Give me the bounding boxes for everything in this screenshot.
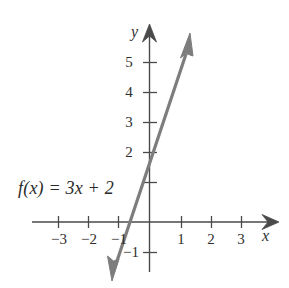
y-tick-label-3: 3 — [120, 115, 138, 130]
function-line-arrow-up-icon — [181, 33, 194, 58]
y-tick-label-neg1: −1 — [119, 245, 143, 260]
graph-figure: y x −3 −2 −1 1 2 3 5 4 3 2 −1 f(x) = 3x … — [0, 0, 289, 288]
y-axis-label: y — [131, 24, 138, 40]
x-tick-label-pos2: 2 — [201, 232, 221, 247]
x-tick-label-pos3: 3 — [231, 232, 251, 247]
x-axis-label: x — [262, 228, 269, 244]
x-tick-label-pos1: 1 — [171, 232, 191, 247]
x-tick-label-neg3: −3 — [46, 232, 72, 247]
x-tick-label-neg2: −2 — [76, 232, 102, 247]
y-tick-label-4: 4 — [120, 85, 138, 100]
function-line-arrow-down-icon — [108, 256, 120, 281]
y-tick-label-5: 5 — [120, 55, 138, 70]
y-tick-label-2: 2 — [120, 145, 138, 160]
function-equation-label: f(x) = 3x + 2 — [18, 179, 114, 199]
